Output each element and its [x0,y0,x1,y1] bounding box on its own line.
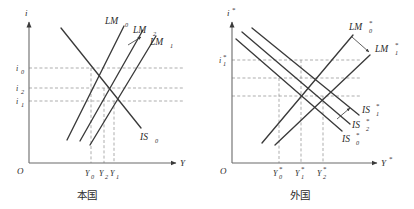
home-label-lm1-sub: 1 [170,42,173,49]
foreign-x-axis-label: Y [381,158,387,168]
home-ytick-0-sub: 0 [21,68,25,75]
foreign-label-is2star-name: IS [351,120,360,130]
home-label-lm2-name: LM [132,25,147,35]
panel-home: LM 0 LM 2 LM 1 IS 0 i Y O i 0 i 2 [16,8,186,201]
foreign-y-axis-label: i [227,8,230,18]
home-ytick-0: i 0 [16,64,25,75]
foreign-caption: 外国 [290,189,310,201]
panel-foreign: LM 0 * LM 1 * IS 1 * IS 2 * IS 0 * i * [219,6,399,201]
home-xtick-2-sub: 2 [105,173,108,180]
foreign-xtick-0: Y 0 * [273,165,283,180]
foreign-ytick-1-name: i [219,56,221,65]
foreign-label-lm1star-star: * [395,41,399,49]
foreign-guides-vertical [279,60,323,163]
isml-figure: LM 0 LM 2 LM 1 IS 0 i Y O i 0 i 2 [0,0,414,209]
foreign-ytick-1: i 1 * [219,53,227,67]
foreign-label-is1star: IS 1 * [361,102,380,117]
home-curve-lm1 [90,36,156,145]
home-curve-is0 [61,28,141,128]
home-xtick-1-sub: 1 [116,173,119,180]
foreign-x-axis-label-group: Y * [381,155,393,168]
home-label-lm0-name: LM [104,16,119,26]
foreign-xtick-0-star: * [279,165,283,173]
foreign-label-is2star-star: * [366,117,370,125]
home-ytick-1-name: i [16,97,18,106]
home-xtick-2: Y 2 [99,169,108,180]
foreign-label-lm0star: LM 0 * [348,19,373,34]
home-xtick-0-sub: 0 [91,173,95,180]
foreign-label-lm0star-sub: 0 [369,27,373,34]
home-ytick-2-sub: 2 [21,88,24,95]
foreign-label-lm1star-sub: 1 [395,49,398,56]
home-xtick-1: Y 1 [110,169,119,180]
home-label-is0-name: IS [139,132,148,142]
foreign-label-lm1star-name: LM [374,44,389,54]
foreign-x-axis-star: * [389,155,393,163]
foreign-curve-is1star [252,28,359,115]
foreign-xtick-1-star: * [301,165,305,173]
foreign-label-lm1star: LM 1 * [374,41,399,56]
home-origin-label: O [17,166,24,176]
foreign-label-is0star-sub: 0 [356,139,360,146]
foreign-label-is2star-sub: 2 [366,125,369,132]
home-ytick-1-sub: 1 [21,101,24,108]
foreign-label-is1star-name: IS [361,105,370,115]
foreign-label-is2star: IS 2 * [351,117,370,132]
home-label-lm0-sub: 0 [125,21,129,28]
foreign-lm-shift-arrow [352,37,369,52]
foreign-label-is1star-sub: 1 [376,110,379,117]
foreign-ytick-1-star: * [223,53,227,61]
foreign-xtick-0-sub: 0 [279,173,283,180]
home-x-axis-label: Y [180,158,186,168]
foreign-ytick-1-sub: 1 [223,60,226,67]
foreign-y-axis-star: * [232,6,236,14]
home-label-lm2: LM 2 [132,25,156,37]
foreign-label-is0star-name: IS [341,134,350,144]
foreign-label-is0star-star: * [356,131,360,139]
home-caption: 本国 [77,189,97,201]
home-ytick-2-name: i [16,84,18,93]
foreign-curve-lm0star [262,35,353,143]
foreign-label-is0star: IS 0 * [341,131,360,146]
foreign-xtick-2-sub: 2 [323,173,326,180]
home-label-is0: IS 0 [139,132,159,144]
foreign-label-lm0star-star: * [369,19,373,27]
home-label-lm1: LM 1 [149,37,173,49]
foreign-xtick-2: Y 2 * [317,165,327,180]
foreign-xtick-2-star: * [323,165,327,173]
foreign-xtick-1-sub: 1 [301,173,304,180]
home-curve-lm2 [80,30,143,141]
home-label-lm1-name: LM [149,37,164,47]
home-y-axis-label: i [25,8,28,18]
home-label-lm2-sub: 2 [153,30,156,37]
home-xtick-0: Y 0 [85,169,95,180]
foreign-xtick-1: Y 1 * [295,165,305,180]
foreign-origin-label: O [220,166,227,176]
foreign-curve-is0star [236,39,342,131]
foreign-label-lm0star-name: LM [348,22,363,32]
home-curve-lm0 [67,26,124,140]
foreign-y-axis-label-group: i * [227,6,236,18]
home-ytick-2: i 2 [16,84,24,95]
foreign-is-shift-arrow [337,108,350,119]
foreign-label-is1star-star: * [376,102,380,110]
home-ytick-1: i 1 [16,97,24,108]
home-label-is0-sub: 0 [155,137,159,144]
home-ytick-0-name: i [16,64,18,73]
home-label-lm0: LM 0 [104,16,129,28]
